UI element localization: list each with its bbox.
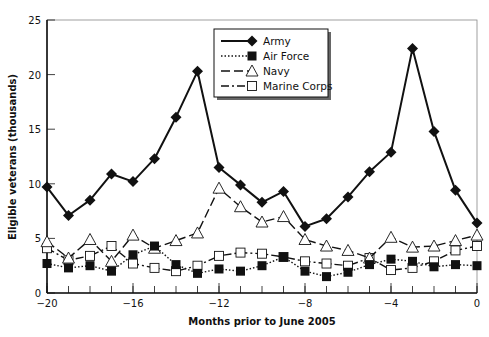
y-tick-label: 5: [35, 233, 41, 244]
square-marker: [301, 267, 310, 276]
diamond-marker: [171, 112, 182, 123]
square-marker: [129, 250, 138, 259]
open-square-marker: [107, 242, 116, 251]
triangle-marker: [321, 240, 333, 251]
open-square-marker: [451, 246, 460, 255]
square-marker: [408, 257, 417, 266]
diamond-marker: [407, 43, 418, 54]
open-square-marker: [129, 259, 138, 268]
open-square-marker: [322, 259, 331, 268]
square-marker: [150, 242, 159, 251]
square-marker: [193, 269, 202, 278]
square-marker: [279, 252, 288, 261]
square-marker: [43, 259, 52, 268]
open-square-marker: [150, 263, 159, 272]
legend-label: Air Force: [263, 50, 309, 62]
diamond-marker: [278, 186, 289, 197]
legend-label: Marine Corps: [263, 80, 332, 92]
x-tick-label: −12: [208, 298, 229, 309]
square-marker: [365, 260, 374, 269]
chart-legend: ArmyAir ForceNavyMarine Corps: [214, 29, 332, 100]
y-axis-title: Eligible veterans (thousands): [7, 74, 18, 240]
triangle-marker: [170, 235, 182, 246]
diamond-marker: [472, 218, 483, 229]
triangle-marker: [471, 229, 483, 240]
open-square-marker: [236, 248, 245, 257]
x-tick-label: 0: [474, 298, 480, 309]
triangle-marker: [213, 182, 225, 193]
square-marker: [248, 52, 257, 61]
square-marker: [107, 267, 116, 276]
open-square-marker: [473, 242, 482, 251]
square-marker: [387, 255, 396, 264]
square-marker: [258, 261, 267, 270]
y-tick-label: 20: [28, 70, 41, 81]
x-tick-label: −16: [122, 298, 143, 309]
open-square-marker: [248, 82, 257, 91]
triangle-marker: [84, 233, 96, 244]
y-tick-label: 10: [28, 179, 41, 190]
legend-label: Navy: [263, 65, 290, 77]
open-square-marker: [301, 257, 310, 266]
y-tick-label: 15: [28, 124, 41, 135]
x-tick-label: −4: [384, 298, 399, 309]
x-tick-label: −8: [298, 298, 313, 309]
square-marker: [215, 264, 224, 273]
open-square-marker: [387, 266, 396, 275]
triangle-marker: [278, 211, 290, 222]
square-marker: [236, 267, 245, 276]
diamond-marker: [300, 221, 311, 232]
triangle-marker: [450, 235, 462, 246]
triangle-marker: [41, 236, 53, 247]
y-tick-label: 25: [28, 15, 41, 26]
diamond-marker: [429, 126, 440, 137]
diamond-marker: [192, 66, 203, 77]
triangle-marker: [385, 231, 397, 242]
x-tick-label: −20: [36, 298, 57, 309]
x-axis-title: Months prior to June 2005: [188, 316, 335, 327]
square-marker: [86, 261, 95, 270]
open-square-marker: [86, 251, 95, 260]
diamond-marker: [450, 185, 461, 196]
square-marker: [473, 261, 482, 270]
open-square-marker: [258, 249, 267, 258]
triangle-marker: [127, 229, 139, 240]
line-chart: 0510152025−20−16−12−8−40 Months prior to…: [0, 0, 489, 337]
open-square-marker: [215, 251, 224, 260]
square-marker: [430, 262, 439, 271]
triangle-marker: [342, 244, 354, 255]
square-marker: [172, 260, 181, 269]
square-marker: [322, 272, 331, 281]
triangle-marker: [192, 227, 204, 238]
legend-label: Army: [263, 35, 291, 47]
square-marker: [451, 260, 460, 269]
square-marker: [64, 263, 73, 272]
square-marker: [344, 268, 353, 277]
